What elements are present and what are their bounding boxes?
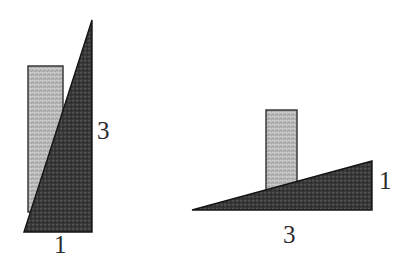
- triangles-illustration: [0, 0, 399, 260]
- right-triangle-base-label: 3: [283, 222, 296, 247]
- right-figure-group: [192, 110, 372, 210]
- left-triangle-base-label: 1: [54, 232, 67, 257]
- right-triangle-height-label: 1: [379, 168, 392, 193]
- left-figure-group: [24, 20, 92, 232]
- left-triangle-height-label: 3: [97, 118, 110, 143]
- figure-canvas: 3 1 1 3: [0, 0, 399, 260]
